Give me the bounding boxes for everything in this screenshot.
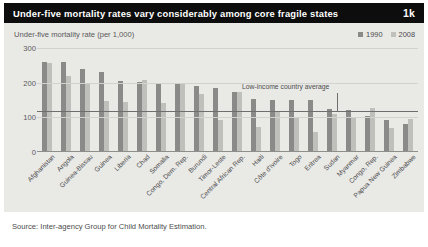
- y-axis-tick-200: 200: [23, 78, 36, 87]
- x-axis-labels: AfghanistanAngolaGuinea-BissauGuineaLibe…: [37, 153, 418, 209]
- reference-line-pointer: [337, 93, 338, 111]
- bar-group: [132, 48, 151, 152]
- y-axis: 0100200300: [14, 48, 36, 152]
- bar-group: [37, 48, 56, 152]
- bar-group: [266, 48, 285, 152]
- bar-group: [94, 48, 113, 152]
- bar-group: [399, 48, 418, 152]
- bar-2008: [104, 101, 109, 152]
- x-axis-label: Guinea: [92, 153, 112, 173]
- figure-title-bar: Under-five mortality rates vary consider…: [4, 3, 424, 23]
- bar-group: [361, 48, 380, 152]
- source-note: Source: Inter-agency Group for Child Mor…: [12, 222, 207, 231]
- legend-label-2008: 2008: [399, 30, 415, 39]
- bar-group: [342, 48, 361, 152]
- bar-group: [323, 48, 342, 152]
- chart-legend: 1990 2008: [358, 30, 415, 39]
- y-axis-tick-300: 300: [23, 44, 36, 53]
- legend-item-2008: 2008: [391, 30, 415, 39]
- x-axis-label: Haiti: [251, 153, 265, 167]
- chart-panel: Under-five mortality rate (per 1,000) 19…: [4, 23, 424, 212]
- bar-2008: [332, 114, 337, 152]
- plot-area: Low-income country average: [37, 48, 418, 152]
- y-axis-tick-0: 0: [32, 148, 36, 157]
- bar-2008: [275, 112, 280, 152]
- bar-group: [380, 48, 399, 152]
- bar-2008: [218, 120, 223, 152]
- bar-2008: [370, 108, 375, 152]
- x-axis-label: Togo: [288, 153, 303, 168]
- x-axis-label: Eritrea: [303, 153, 322, 172]
- gridline-200: [37, 83, 418, 84]
- bar-group: [304, 48, 323, 152]
- gridline-100: [37, 117, 418, 118]
- reference-line-annotation: Low-income country average: [242, 83, 329, 90]
- bar-series-container: [37, 48, 418, 152]
- figure-container: Under-five mortality rates vary consider…: [0, 0, 428, 247]
- low-income-average-line: [37, 111, 418, 112]
- bar-group: [56, 48, 75, 152]
- page-title: Under-five mortality rates vary consider…: [13, 8, 338, 19]
- bar-2008: [389, 128, 394, 152]
- bar-group: [151, 48, 170, 152]
- y-axis-tick-100: 100: [23, 113, 36, 122]
- figure-number-badge: 1k: [403, 7, 415, 19]
- bar-2008: [313, 132, 318, 152]
- x-axis-label: Chad: [134, 153, 150, 169]
- bar-2008: [66, 76, 71, 152]
- legend-swatch-2008: [391, 32, 396, 37]
- bar-group: [208, 48, 227, 152]
- bar-2008: [256, 127, 261, 152]
- legend-swatch-1990: [358, 32, 363, 37]
- gridline-300: [37, 48, 418, 49]
- bar-2008: [47, 63, 52, 152]
- bar-group: [75, 48, 94, 152]
- axis-baseline: [37, 151, 418, 152]
- bar-2008: [408, 119, 413, 152]
- bar-group: [247, 48, 266, 152]
- bar-2008: [237, 92, 242, 152]
- bar-2008: [199, 94, 204, 152]
- bar-group: [189, 48, 208, 152]
- bar-group: [285, 48, 304, 152]
- bar-2008: [351, 118, 356, 152]
- x-axis-label: Afghanistan: [26, 153, 56, 183]
- chart-subtitle: Under-five mortality rate (per 1,000): [14, 30, 134, 39]
- bar-group: [170, 48, 189, 152]
- bar-2008: [142, 80, 147, 152]
- bar-2008: [123, 102, 128, 152]
- bar-2008: [294, 118, 299, 152]
- x-axis-label: Liberia: [113, 153, 132, 172]
- legend-item-1990: 1990: [358, 30, 382, 39]
- legend-label-1990: 1990: [366, 30, 382, 39]
- bar-group: [227, 48, 246, 152]
- bar-group: [113, 48, 132, 152]
